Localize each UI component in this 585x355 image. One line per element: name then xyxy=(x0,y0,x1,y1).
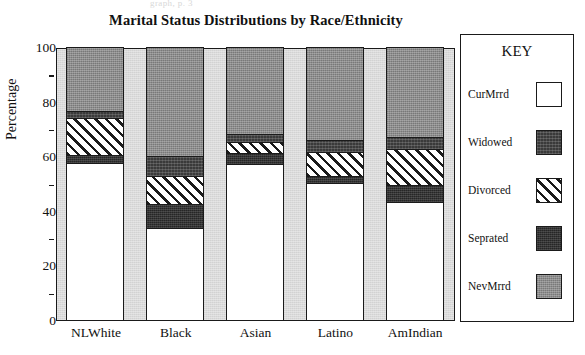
diagonal-hatch-icon xyxy=(536,178,562,203)
bar-segment-amindian-nevmrrd[interactable] xyxy=(387,48,443,137)
bar-segment-latino-nevmrrd[interactable] xyxy=(307,48,363,140)
legend-key-box: KEY CurMrrdWidowedDivorcedSepratedNevMrr… xyxy=(460,34,574,322)
bar-segment-latino-seprated[interactable] xyxy=(307,176,363,183)
bar-segment-latino-divorced[interactable] xyxy=(307,152,363,177)
bar-amindian[interactable] xyxy=(386,47,444,320)
bar-segment-nlwhite-widowed[interactable] xyxy=(67,111,123,118)
y-minor-tick-30 xyxy=(49,239,54,240)
bar-segment-amindian-curmrrd[interactable] xyxy=(387,202,443,320)
bar-segment-amindian-seprated[interactable] xyxy=(387,185,443,203)
bar-segment-asian-seprated[interactable] xyxy=(227,153,283,164)
dark-square-icon xyxy=(536,130,562,155)
y-minor-tick-10 xyxy=(49,294,54,295)
bar-asian[interactable] xyxy=(226,47,284,320)
chart-title: Marital Status Distributions by Race/Eth… xyxy=(56,12,456,29)
legend-item-label: NevMrrd xyxy=(468,280,511,292)
legend-item-seprated[interactable]: Seprated xyxy=(468,225,568,251)
bar-segment-nlwhite-curmrrd[interactable] xyxy=(67,163,123,320)
bar-segment-asian-curmrrd[interactable] xyxy=(227,164,283,320)
legend-item-curmrrd[interactable]: CurMrrd xyxy=(468,81,568,107)
x-tick-label-asian: Asian xyxy=(216,325,296,341)
y-tick-label-100: 100 xyxy=(16,41,56,55)
x-tick-label-black: Black xyxy=(136,325,216,341)
y-minor-tick-70 xyxy=(49,130,54,131)
x-tick-label-nlwhite: NLWhite xyxy=(56,325,136,341)
legend-title: KEY xyxy=(461,43,573,60)
y-tick-label-80: 80 xyxy=(16,96,56,110)
bar-latino[interactable] xyxy=(306,47,364,320)
bar-segment-nlwhite-seprated[interactable] xyxy=(67,155,123,163)
legend-item-widowed[interactable]: Widowed xyxy=(468,129,568,155)
bar-segment-latino-curmrrd[interactable] xyxy=(307,183,363,320)
plot-area xyxy=(56,48,455,321)
x-tick-label-latino: Latino xyxy=(295,325,375,341)
bar-segment-latino-widowed[interactable] xyxy=(307,140,363,152)
very-dark-square-icon xyxy=(536,226,562,251)
bar-segment-black-seprated[interactable] xyxy=(147,204,203,228)
y-tick-label-0: 0 xyxy=(16,314,56,328)
bar-segment-black-nevmrrd[interactable] xyxy=(147,48,203,156)
bar-segment-asian-widowed[interactable] xyxy=(227,134,283,142)
legend-item-label: Seprated xyxy=(468,232,508,244)
y-axis-title: Percentage xyxy=(4,79,20,140)
legend-item-label: Widowed xyxy=(468,136,512,148)
legend-item-label: Divorced xyxy=(468,184,511,196)
bar-black[interactable] xyxy=(146,47,204,320)
y-minor-tick-50 xyxy=(49,185,54,186)
y-tick-label-20: 20 xyxy=(16,259,56,273)
bar-segment-black-curmrrd[interactable] xyxy=(147,228,203,320)
y-axis: Percentage 100806040200 xyxy=(10,0,56,355)
bar-segment-asian-divorced[interactable] xyxy=(227,142,283,153)
y-minor-tick-90 xyxy=(49,75,54,76)
white-square-icon xyxy=(536,82,562,107)
bar-segment-amindian-widowed[interactable] xyxy=(387,137,443,149)
bar-nlwhite[interactable] xyxy=(66,47,124,320)
bar-segment-black-divorced[interactable] xyxy=(147,176,203,205)
bar-segment-black-widowed[interactable] xyxy=(147,156,203,176)
y-tick-label-40: 40 xyxy=(16,205,56,219)
legend-item-divorced[interactable]: Divorced xyxy=(468,177,568,203)
bar-segment-amindian-divorced[interactable] xyxy=(387,149,443,185)
bar-segment-asian-nevmrrd[interactable] xyxy=(227,48,283,134)
bar-segment-nlwhite-divorced[interactable] xyxy=(67,118,123,155)
y-tick-label-60: 60 xyxy=(16,150,56,164)
legend-item-nevmrrd[interactable]: NevMrrd xyxy=(468,273,568,299)
x-tick-label-amindian: AmIndian xyxy=(375,325,455,341)
bar-segment-nlwhite-nevmrrd[interactable] xyxy=(67,48,123,111)
scan-artifact-text: graph, p. 3 xyxy=(150,0,193,8)
legend-item-label: CurMrrd xyxy=(468,88,509,100)
gray-square-icon xyxy=(536,274,562,299)
